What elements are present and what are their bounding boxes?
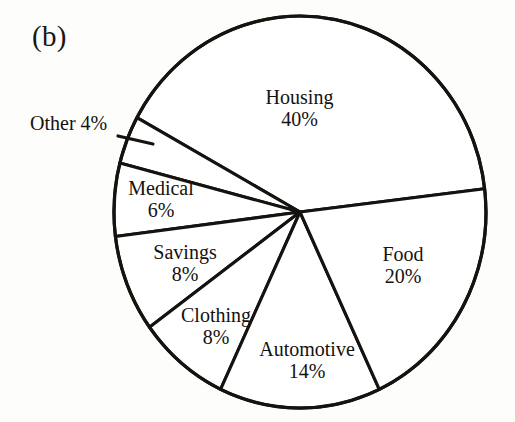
pie-label-medical-name: Medical <box>120 177 202 199</box>
pie-label-other-name: Other <box>30 112 81 134</box>
pie-label-other-value: 4% <box>81 112 108 134</box>
pie-label-other: Other 4% <box>30 112 125 134</box>
figure-panel: (b) Housing 40% Food 20% Automotive 14% … <box>0 0 515 422</box>
pie-label-automotive: Automotive 14% <box>248 338 366 383</box>
pie-label-clothing: Clothing 8% <box>170 304 262 349</box>
pie-label-clothing-name: Clothing <box>170 304 262 326</box>
pie-label-housing-name: Housing <box>237 86 362 108</box>
pie-label-housing-value: 40% <box>237 108 362 130</box>
pie-label-automotive-value: 14% <box>248 360 366 382</box>
panel-label: (b) <box>32 20 67 53</box>
pie-label-food-name: Food <box>353 243 453 265</box>
pie-label-housing: Housing 40% <box>237 86 362 131</box>
pie-label-savings: Savings 8% <box>145 241 225 286</box>
pie-label-savings-value: 8% <box>145 263 225 285</box>
pie-label-food: Food 20% <box>353 243 453 288</box>
pie-label-clothing-value: 8% <box>170 326 262 348</box>
pie-label-food-value: 20% <box>353 265 453 287</box>
pie-label-medical: Medical 6% <box>120 177 202 222</box>
pie-label-savings-name: Savings <box>145 241 225 263</box>
pie-label-automotive-name: Automotive <box>248 338 366 360</box>
pie-label-medical-value: 6% <box>120 199 202 221</box>
